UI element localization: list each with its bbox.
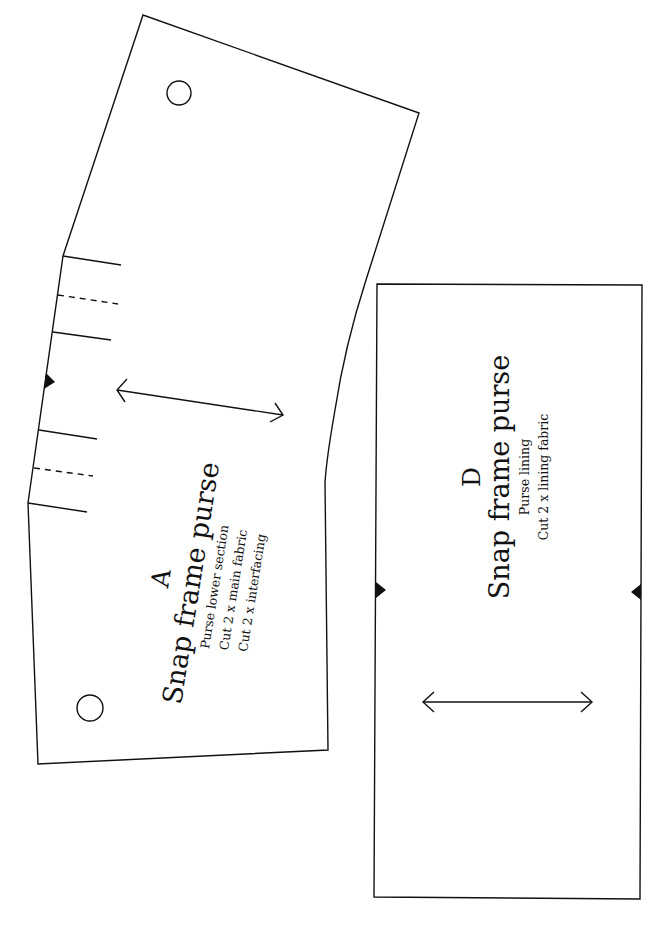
piece-a-label: A Snap frame purse Purse lower section C… bbox=[128, 455, 279, 714]
pleat-line-solid bbox=[63, 256, 121, 265]
notch-marker-icon bbox=[376, 582, 386, 598]
snap-marker-circle bbox=[167, 81, 191, 105]
piece-d-line-2: Cut 2 x lining fabric bbox=[536, 414, 551, 541]
piece-d-title: Snap frame purse bbox=[484, 355, 515, 599]
pleat-line-solid bbox=[53, 332, 111, 340]
piece-d-letter: D bbox=[457, 467, 486, 487]
grainline-arrow-icon bbox=[423, 692, 592, 712]
piece-a-outline bbox=[28, 15, 419, 764]
pleat-line-solid bbox=[28, 503, 87, 512]
piece-a-letter: A bbox=[145, 566, 177, 590]
notch-marker-icon bbox=[631, 584, 641, 600]
piece-d-label: D Snap frame purse Purse lining Cut 2 x … bbox=[457, 355, 551, 599]
pattern-piece-a bbox=[28, 15, 419, 764]
grainline-arrow-icon bbox=[117, 379, 283, 422]
pleat-line-solid bbox=[39, 430, 97, 439]
snap-marker-circle bbox=[77, 695, 103, 721]
pleat-line-dashed bbox=[34, 468, 93, 476]
pattern-sheet: A Snap frame purse Purse lower section C… bbox=[0, 0, 648, 927]
piece-d-line-1: Purse lining bbox=[517, 439, 532, 515]
pleat-line-dashed bbox=[58, 295, 118, 304]
